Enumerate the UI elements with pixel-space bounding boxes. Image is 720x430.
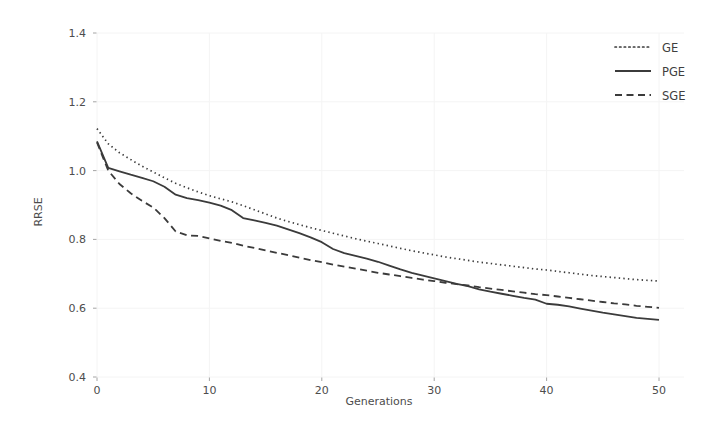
y-axis-title: RRSE — [32, 197, 45, 226]
series-line-pge — [97, 141, 659, 320]
x-tick-label: 40 — [540, 384, 554, 397]
chart-legend: GEPGESGE — [615, 41, 685, 103]
x-tick-label: 30 — [427, 384, 441, 397]
y-tick-label: 1.2 — [69, 96, 87, 109]
y-tick-marks — [93, 33, 97, 377]
data-series-group — [97, 129, 659, 320]
x-tick-label: 20 — [315, 384, 329, 397]
x-axis-title: Generations — [345, 395, 412, 408]
x-tick-marks — [97, 378, 659, 382]
series-line-ge — [97, 129, 659, 281]
chart-figure: 0.40.60.81.01.21.4 01020304050 GEPGESGE … — [0, 0, 720, 430]
y-tick-label: 0.8 — [69, 233, 87, 246]
x-tick-label: 50 — [652, 384, 666, 397]
line-chart-canvas: 0.40.60.81.01.21.4 01020304050 GEPGESGE … — [0, 0, 720, 430]
x-tick-label: 10 — [202, 384, 216, 397]
y-tick-label: 1.4 — [69, 27, 87, 40]
y-tick-label: 1.0 — [69, 165, 87, 178]
x-tick-label: 0 — [94, 384, 101, 397]
gridlines — [97, 33, 684, 377]
y-tick-labels: 0.40.60.81.01.21.4 — [69, 27, 87, 384]
legend-label-pge: PGE — [662, 65, 685, 79]
legend-label-ge: GE — [662, 41, 678, 55]
y-tick-label: 0.6 — [69, 302, 87, 315]
series-line-sge — [97, 142, 659, 307]
y-tick-label: 0.4 — [69, 371, 87, 384]
legend-label-sge: SGE — [662, 89, 685, 103]
